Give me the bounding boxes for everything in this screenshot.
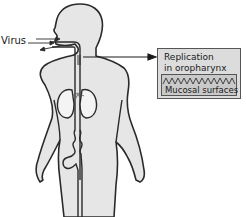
replication-title-line1: Replication bbox=[164, 52, 227, 63]
replication-box: Replication in oropharynx Mucosal surfac… bbox=[157, 48, 241, 99]
replication-box-title: Replication in oropharynx bbox=[164, 52, 227, 74]
mucosal-surfaces-box: Mucosal surfaces bbox=[161, 74, 237, 96]
replication-title-line2: in oropharynx bbox=[164, 63, 227, 74]
diagram-canvas: Virus Replication in oropharynx Mucosal … bbox=[0, 0, 246, 217]
virus-label: Virus bbox=[1, 35, 26, 47]
mucosal-surfaces-label: Mucosal surfaces bbox=[165, 85, 238, 95]
human-body-illustration bbox=[0, 0, 246, 217]
